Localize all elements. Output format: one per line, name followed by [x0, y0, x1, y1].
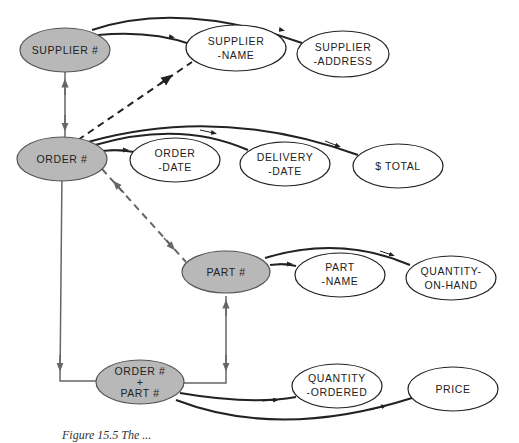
node-order-part-key: ORDER # + PART #	[96, 360, 184, 404]
node-label: -ADDRESS	[313, 55, 372, 67]
edge-part-to-order-part	[183, 296, 226, 383]
node-label: PART	[325, 261, 354, 273]
node-label: QUANTITY-	[420, 265, 481, 277]
node-label: ON-HAND	[424, 279, 477, 291]
edge-order-to-part-dashed	[102, 169, 186, 262]
node-label: ORDER	[155, 147, 196, 159]
node-quantity-on-hand: QUANTITY- ON-HAND	[406, 256, 496, 300]
edge-order-to-supplier-name-dashed	[78, 62, 192, 140]
node-label: -DATE	[268, 165, 302, 177]
node-label: -ORDERED	[307, 386, 368, 398]
node-label: -NAME	[322, 275, 359, 287]
node-part-key: PART #	[182, 251, 270, 293]
node-order-date: ORDER -DATE	[130, 138, 220, 182]
node-label: -NAME	[218, 49, 255, 61]
node-label: ORDER #	[37, 153, 88, 165]
node-label: PART #	[120, 387, 159, 399]
node-label: PART #	[206, 266, 245, 278]
node-label: QUANTITY	[308, 372, 366, 384]
edge-order-part-to-price	[176, 398, 412, 420]
node-price: PRICE	[408, 367, 498, 411]
node-label: $ TOTAL	[375, 160, 421, 172]
node-label: SUPPLIER #	[32, 44, 99, 56]
node-supplier-address: SUPPLIER -ADDRESS	[297, 31, 389, 77]
node-quantity-ordered: QUANTITY -ORDERED	[292, 364, 382, 408]
node-supplier-key: SUPPLIER #	[20, 28, 110, 72]
node-label: DELIVERY	[257, 151, 314, 163]
figure-caption: Figure 15.5 The ...	[62, 428, 151, 443]
node-supplier-name: SUPPLIER -NAME	[186, 25, 286, 71]
node-label: SUPPLIER	[208, 35, 265, 47]
node-part-name: PART -NAME	[295, 253, 385, 297]
edge-order-to-order-part	[60, 171, 97, 381]
node-order-key: ORDER #	[17, 137, 107, 181]
node-label: -DATE	[158, 161, 192, 173]
node-label: PRICE	[435, 383, 470, 395]
edge-supplier-to-supplier-name	[98, 34, 190, 44]
node-label: SUPPLIER	[315, 41, 372, 53]
node-total: $ TOTAL	[353, 144, 443, 188]
node-delivery-date: DELIVERY -DATE	[240, 142, 330, 186]
edges	[60, 18, 412, 420]
edge-order-part-to-quantity-ordered	[180, 393, 296, 400]
